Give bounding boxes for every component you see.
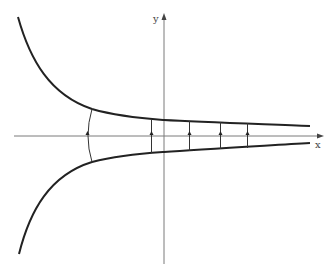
y-axis-arrow-icon <box>162 13 167 20</box>
y-axis <box>162 13 167 264</box>
up-arrow-icon <box>86 131 90 135</box>
hyperbola-diagram: x y <box>0 0 334 272</box>
up-arrow-icon <box>188 131 192 135</box>
x-axis <box>14 134 324 139</box>
y-axis-label: y <box>152 13 159 24</box>
up-arrow-icon <box>219 131 223 135</box>
x-axis-arrow-icon <box>317 134 324 139</box>
up-arrow-icon <box>150 131 154 135</box>
up-arrow-icon <box>246 131 250 135</box>
x-axis-label: x <box>315 139 321 150</box>
